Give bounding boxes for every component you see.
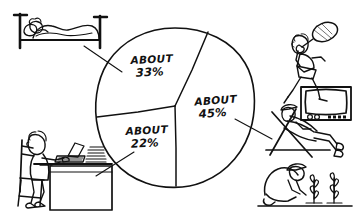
worker-torso — [30, 154, 49, 180]
leader-lines — [84, 46, 272, 176]
tennis-racket-head — [310, 19, 341, 45]
bed-blanket-fold — [36, 33, 92, 36]
slice-label-leisure-group: ABOUT 45% — [193, 93, 238, 122]
tennis-forward-arm — [312, 57, 325, 61]
person-gardening-illustration — [258, 164, 352, 206]
deckchair-shoe-upper — [336, 143, 343, 150]
person-in-deck-chair-illustration — [266, 105, 343, 157]
slice-label-work-value: 22% — [130, 135, 159, 150]
tennis-leg-back — [288, 77, 301, 97]
pie-chart: ABOUT 33% ABOUT 45% ABOUT 22% — [96, 28, 255, 187]
pie-divider-left — [97, 106, 175, 117]
typewriter-paper — [68, 143, 84, 157]
desk-body — [50, 166, 112, 210]
pie-divider-bottom — [175, 106, 176, 186]
garden-leg — [266, 194, 296, 201]
leader-line-sleeping — [84, 46, 122, 72]
pie-chart-figure: ABOUT 33% ABOUT 45% ABOUT 22% — [0, 0, 356, 220]
worker-head — [28, 135, 45, 155]
worker-legs — [31, 180, 34, 203]
tv-knob-left — [308, 115, 313, 120]
desk-papers-right — [88, 147, 104, 150]
desk-paper-stack — [86, 153, 106, 162]
tv-knob-right — [315, 115, 320, 120]
tv-screen — [305, 90, 347, 115]
tennis-shoe-back — [284, 97, 288, 103]
garden-seedling-1-leaves — [310, 175, 318, 199]
deckchair-leg-lower — [314, 138, 336, 150]
television-set-illustration — [301, 87, 351, 120]
person-working-at-desk-illustration — [18, 131, 112, 210]
slice-label-sleeping-value: 33% — [135, 64, 164, 79]
person-sleeping-in-bed-illustration — [14, 14, 107, 48]
tennis-shoe-front — [319, 99, 327, 101]
garden-seedling-2-leaves — [330, 173, 338, 199]
tv-button-4 — [343, 116, 346, 119]
tv-button-1 — [328, 116, 331, 119]
leader-line-leisure — [235, 119, 272, 139]
sleeping-arm — [38, 30, 48, 32]
slice-label-leisure-value: 45% — [197, 105, 227, 121]
tennis-leg-front — [312, 78, 320, 99]
deckchair-leg-upper — [315, 132, 337, 144]
slice-label-work-group: ABOUT 22% — [124, 123, 169, 151]
slice-label-sleeping-group: ABOUT 33% — [129, 52, 174, 80]
tv-button-3 — [338, 116, 341, 119]
deckchair-shoe-lower — [334, 150, 343, 157]
chair-leg-rail — [19, 196, 41, 198]
tv-button-2 — [333, 116, 336, 119]
